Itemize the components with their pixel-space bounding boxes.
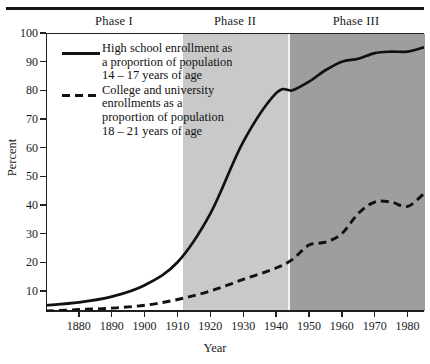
series-line-college bbox=[46, 193, 424, 311]
legend-label-high-school: High school enrollment as a proportion o… bbox=[102, 42, 232, 83]
chart-legend: High school enrollment as a proportion o… bbox=[60, 42, 256, 139]
chart-figure: Phase I Phase II Phase III 1009080706050… bbox=[0, 0, 430, 364]
legend-swatch-dashed-line-icon bbox=[60, 88, 102, 102]
legend-entry-college: College and university enrollments as a … bbox=[60, 84, 256, 138]
legend-entry-high-school: High school enrollment as a proportion o… bbox=[60, 42, 256, 83]
legend-swatch-solid-line-icon bbox=[60, 46, 102, 60]
legend-label-college: College and university enrollments as a … bbox=[102, 84, 224, 138]
